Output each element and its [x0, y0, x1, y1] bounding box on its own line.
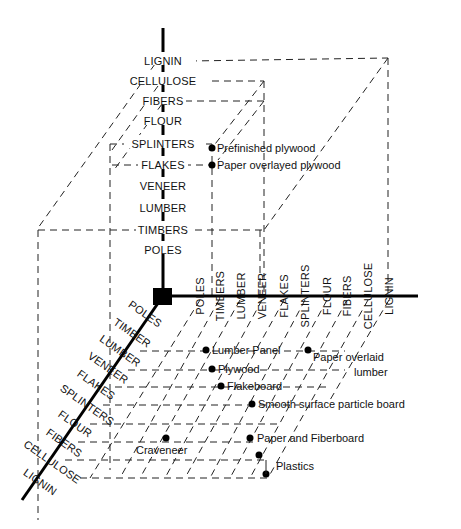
point-paper-and-fiberboard — [247, 435, 254, 442]
h-label-splinters: SPLINTERS — [299, 265, 311, 328]
v-label-fibers: FIBERS — [143, 95, 184, 107]
origin-square — [153, 288, 172, 305]
point-paper-fiber-mid — [256, 452, 263, 459]
point-plywood — [209, 366, 216, 373]
h-label-lumber: LUMBER — [235, 272, 247, 319]
label-lumber-panel: Lumber Panel — [212, 344, 281, 356]
h-label-fibers: FIBERS — [341, 276, 353, 317]
diagram-canvas: LIGNIN CELLULOSE FIBERS FLOUR SPLINTERS … — [0, 0, 461, 529]
label-flakeboard: Flakeboard — [227, 380, 282, 392]
h-label-flakes: FLAKES — [278, 274, 290, 317]
h-label-timbers: TIMBERS — [214, 271, 226, 321]
h-label-cellulose: CELLULOSE — [362, 263, 374, 330]
v-label-poles: POLES — [144, 244, 182, 256]
point-paper-overlaid-lumber — [305, 347, 312, 354]
label-plastics: Plastics — [276, 460, 314, 472]
v-label-lignin: LIGNIN — [144, 55, 182, 67]
point-paper-overlayed-plywood — [209, 162, 216, 169]
label-craveneer: Craveneer — [136, 444, 188, 456]
v-label-veneer: VENEER — [140, 180, 186, 192]
point-smooth-surface-particle-board — [249, 401, 256, 408]
cube-wireframe — [38, 58, 388, 520]
label-plywood: Plywood — [218, 363, 260, 375]
label-paper-overlayed-plywood: Paper overlayed plywood — [217, 159, 341, 171]
point-craveneer — [163, 435, 170, 442]
label-lumber: lumber — [354, 366, 388, 378]
v-label-timbers: TIMBERS — [138, 224, 188, 236]
h-label-flour: FLOUR — [321, 277, 333, 315]
v-label-lumber: LUMBER — [139, 202, 186, 214]
label-paper-and-fiberboard: Paper and Fiberboard — [257, 432, 364, 444]
v-label-flour: FLOUR — [144, 115, 182, 127]
wood-products-3d-diagram: LIGNIN CELLULOSE FIBERS FLOUR SPLINTERS … — [0, 0, 461, 529]
point-prefinished-plywood — [209, 145, 216, 152]
h-label-poles: POLES — [194, 277, 206, 315]
label-smooth-surface-particle-board: Smooth surface particle board — [258, 398, 405, 410]
h-label-veneer: VENEER — [256, 273, 268, 319]
label-prefinished-plywood: Prefinished plywood — [217, 142, 315, 154]
v-label-splinters: SPLINTERS — [132, 138, 195, 150]
point-flakeboard — [218, 383, 225, 390]
v-label-cellulose: CELLULOSE — [130, 75, 197, 87]
point-lumber-panel — [203, 347, 210, 354]
h-label-lignin: LIGNIN — [383, 277, 395, 315]
label-paper-overlaid: Paper overlaid — [313, 351, 384, 363]
v-label-flakes: FLAKES — [141, 159, 184, 171]
diagonal-axis — [22, 296, 163, 500]
